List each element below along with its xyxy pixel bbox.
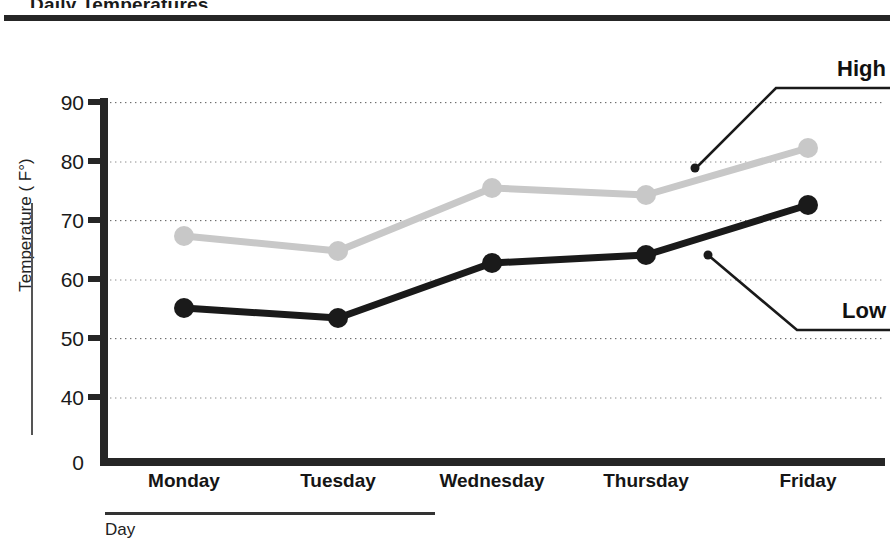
series-low <box>174 195 818 328</box>
high-series-label: High <box>837 56 886 82</box>
y-tick-0: 0 <box>40 452 84 473</box>
y-tick-40: 40 <box>40 387 84 408</box>
gridlines <box>108 102 885 398</box>
series-high <box>174 138 818 261</box>
x-axis-title-rule <box>105 512 435 515</box>
x-tick-thursday: Thursday <box>603 470 689 492</box>
x-axis-title: Day <box>105 520 135 540</box>
y-tick-marks <box>88 99 102 400</box>
high-callout-leader <box>691 88 891 173</box>
low-series-label: Low <box>842 298 886 324</box>
axis-lines <box>100 98 885 466</box>
chart-screenshot: Daily Temperatures <box>0 0 894 556</box>
x-tick-monday: Monday <box>148 470 220 492</box>
y-tick-80: 80 <box>40 151 84 172</box>
y-tick-50: 50 <box>40 328 84 349</box>
y-tick-60: 60 <box>40 269 84 290</box>
y-tick-90: 90 <box>40 92 84 113</box>
line-chart: 90 80 70 60 50 40 0 Temperature ( F°) Mo… <box>0 0 894 556</box>
x-tick-friday: Friday <box>779 470 836 492</box>
y-axis-title-rule <box>31 203 33 435</box>
y-tick-70: 70 <box>40 210 84 231</box>
x-tick-wednesday: Wednesday <box>439 470 544 492</box>
y-axis-ticks: 90 80 70 60 50 40 0 <box>40 0 84 556</box>
y-axis-title: Temperature ( F°) <box>16 110 42 340</box>
x-tick-tuesday: Tuesday <box>300 470 376 492</box>
